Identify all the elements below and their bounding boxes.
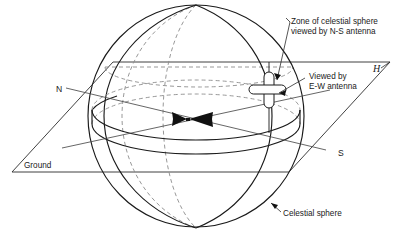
zone-label-line1: Zone of celestial sphere [291, 17, 378, 26]
viewed-label-line1: Viewed by [309, 72, 348, 81]
zone-label-leader [277, 22, 290, 80]
north-label: N [56, 84, 62, 94]
leaders-group [271, 18, 390, 212]
zone-label-line2: viewed by N-S antenna [291, 27, 376, 36]
ground-label: Ground [24, 161, 52, 170]
meridian-front-left [104, 5, 196, 228]
beam-cross-right-wing [189, 112, 213, 127]
celestial-sphere-label: Celestial sphere [283, 209, 342, 218]
beam-cross-marker-group [172, 112, 213, 127]
celestial-sphere-figure: Zone of celestial sphere viewed by N-S a… [0, 0, 399, 231]
south-label: S [338, 148, 344, 158]
beam-cross-hub [186, 118, 190, 121]
zone-label-tick [286, 18, 290, 22]
horizon-label: H [372, 63, 381, 74]
beam-cross-left-wing [172, 112, 187, 126]
diagram-canvas: Zone of celestial sphere viewed by N-S a… [0, 0, 399, 231]
sphere-group [88, 5, 304, 228]
viewed-label-line2: E-W antenna [309, 82, 357, 91]
antenna-group [249, 62, 286, 133]
